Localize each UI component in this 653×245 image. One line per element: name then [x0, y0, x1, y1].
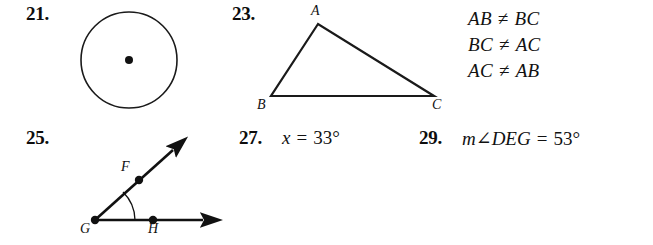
inequality-line-1: AB≠BC [468, 6, 541, 32]
answer-value-29: 53° [553, 128, 580, 149]
inequality-2-right: AC [516, 34, 541, 55]
circle-figure-21 [75, 6, 187, 118]
angle-point-label-f: F [121, 159, 130, 175]
angle-arc [123, 192, 135, 220]
inequality-line-3: AC≠AB [468, 58, 541, 84]
answer-value-27: 33° [313, 127, 340, 148]
exercise-number-21: 21. [26, 3, 49, 25]
equals-sign: = [290, 127, 313, 148]
inequality-3-left: AC [468, 60, 493, 81]
inequality-3-right: AB [516, 60, 540, 81]
equals-sign: = [531, 128, 554, 149]
circle-center-dot [125, 56, 133, 64]
inequality-1-left: AB [468, 8, 492, 29]
point-f-dot [135, 176, 143, 184]
not-equal-icon: ≠ [492, 8, 515, 29]
answer-inequalities-23: AB≠BC BC≠AC AC≠AB [468, 6, 541, 84]
angle-figure-25 [85, 135, 220, 235]
inequality-2-left: BC [468, 34, 493, 55]
angle-vertex-label-g: G [80, 221, 90, 237]
triangle-vertex-label-c: C [432, 97, 441, 113]
triangle-vertex-label-b: B [257, 97, 266, 113]
inequality-1-right: BC [515, 8, 540, 29]
answer-equation-27: x=33° [282, 127, 340, 149]
exercise-number-29: 29. [419, 127, 442, 149]
exercise-number-27: 27. [239, 127, 262, 149]
angle-measure-expression: m∠DEG [462, 128, 531, 149]
exercise-number-23: 23. [232, 3, 255, 25]
worksheet-answer-page: 21. 23. A B C AB≠BC BC≠AC AC≠AB 25. [0, 0, 653, 245]
answer-equation-29: m∠DEG=53° [462, 127, 580, 150]
not-equal-icon: ≠ [493, 60, 516, 81]
inequality-line-2: BC≠AC [468, 32, 541, 58]
exercise-number-25: 25. [26, 127, 49, 149]
angle-point-label-h: H [148, 221, 158, 237]
triangle-vertex-label-a: A [311, 3, 320, 19]
not-equal-icon: ≠ [493, 34, 516, 55]
point-g-dot [91, 216, 99, 224]
triangle-figure-23 [255, 14, 450, 106]
triangle-abc-outline [271, 24, 434, 96]
